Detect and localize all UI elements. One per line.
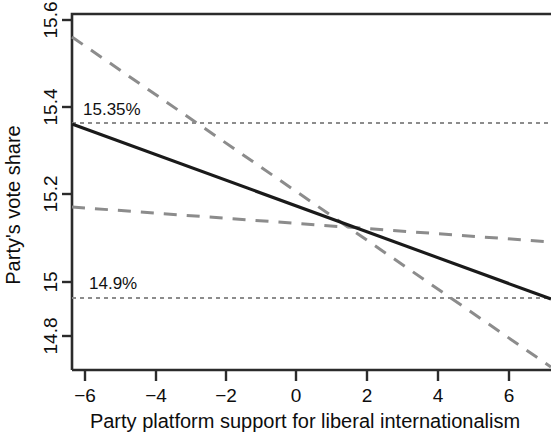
x-tick-label-minus2: −2 [215, 385, 237, 406]
y-axis-title: Party's vote share [2, 125, 24, 284]
y-tick-label-14-8: 14.8 [40, 318, 61, 355]
y-axis-ticks [62, 20, 72, 336]
y-tick-label-15-2: 15.2 [40, 176, 61, 213]
x-tick-label-minus4: −4 [145, 385, 167, 406]
x-tick-label-4: 4 [433, 385, 444, 406]
x-tick-label-minus6: −6 [74, 385, 96, 406]
chart-svg: 15.6 15.4 15.2 15 14.8 −6 −4 −2 0 2 4 6 … [0, 0, 551, 436]
annotation-upper-percent: 15.35% [83, 100, 141, 119]
annotation-lower-percent: 14.9% [89, 274, 137, 293]
x-tick-label-2: 2 [362, 385, 373, 406]
chart-figure: 15.6 15.4 15.2 15 14.8 −6 −4 −2 0 2 4 6 … [0, 0, 551, 436]
x-tick-label-0: 0 [291, 385, 302, 406]
x-tick-label-6: 6 [504, 385, 515, 406]
y-tick-label-15-4: 15.4 [40, 88, 61, 125]
y-tick-label-15: 15 [40, 271, 61, 292]
x-axis-title: Party platform support for liberal inter… [90, 410, 520, 432]
confidence-bound-steep [72, 37, 551, 367]
y-tick-label-15-6: 15.6 [40, 2, 61, 39]
x-axis-ticks [85, 370, 509, 381]
